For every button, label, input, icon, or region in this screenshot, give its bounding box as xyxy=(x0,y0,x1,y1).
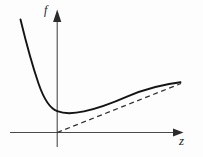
y-axis-label: f xyxy=(44,4,47,16)
plot-canvas xyxy=(0,0,203,157)
function-curve xyxy=(21,20,181,114)
asymptote-line xyxy=(57,84,181,133)
figure-container: f z xyxy=(0,0,203,157)
y-axis-arrow-icon xyxy=(53,10,61,23)
x-axis-label: z xyxy=(179,134,184,147)
